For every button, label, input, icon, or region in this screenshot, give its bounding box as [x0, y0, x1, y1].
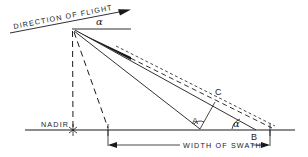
sensor-rays-group — [74, 30, 256, 130]
line-c-dashed — [108, 47, 272, 128]
angle-a-tick — [200, 102, 215, 129]
ray-to-point-b — [75, 30, 256, 130]
point-a-label: A — [192, 116, 198, 126]
angle-alpha-bottom-label: α — [233, 118, 240, 129]
point-c-label: C — [215, 87, 222, 97]
ray-to-point-a — [74, 31, 200, 129]
width-of-swath-label: WIDTH OF SWATH — [183, 141, 262, 150]
angle-alpha-top-label: α — [96, 16, 103, 27]
diagram-canvas: DIRECTION OF FLIGHT α α NADIR A B C WIDT… — [0, 0, 308, 157]
swath-geometry-diagram: DIRECTION OF FLIGHT α α NADIR A B C WIDT… — [0, 0, 308, 157]
near-edge-dashed-ray — [74, 32, 108, 128]
arrowhead-swath-right-icon — [261, 142, 270, 148]
arrowhead-swath-left-icon — [108, 142, 117, 148]
arrowhead-flight-icon — [118, 9, 131, 15]
nadir-label: NADIR — [41, 120, 69, 129]
line-c-dashed-secondary — [116, 46, 275, 126]
nadir-vertical-dashed-line — [73, 31, 74, 128]
